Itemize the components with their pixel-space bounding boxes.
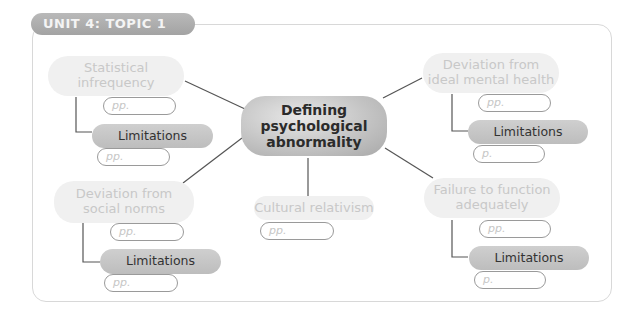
page-ref-field[interactable]: pp.	[110, 223, 184, 241]
limitations-label: Limitations	[494, 251, 563, 265]
central-node: Defining psychological abnormality	[241, 96, 387, 156]
limitations-label: Limitations	[126, 254, 195, 268]
limitations-node: Limitations	[468, 120, 588, 144]
limitations-label: Limitations	[118, 129, 187, 143]
node-cultural-relativism: Cultural relativism	[254, 196, 374, 220]
page-ref-field[interactable]: pp.	[104, 274, 178, 292]
node-label: Cultural relativism	[254, 201, 373, 216]
page-ref-field[interactable]: pp.	[260, 222, 334, 240]
central-node-label: Defining psychological abnormality	[259, 102, 369, 150]
limitations-node: Limitations	[469, 246, 589, 270]
node-label: Deviation from social norms	[74, 187, 174, 217]
node-failure-to-function: Failure to function adequately	[424, 178, 560, 218]
page-ref-field[interactable]: pp.	[103, 97, 176, 115]
limitations-node: Limitations	[100, 249, 221, 274]
limitations-label: Limitations	[493, 125, 562, 139]
node-label: Deviation from ideal mental health	[426, 58, 556, 88]
node-deviation-social-norms: Deviation from social norms	[54, 181, 194, 223]
node-statistical-infrequency: Statistical infrequency	[48, 56, 184, 96]
page-ref-field[interactable]: pp.	[97, 148, 170, 166]
limitations-node: Limitations	[92, 124, 213, 148]
page-ref-field[interactable]: p.	[474, 271, 546, 289]
page-ref-field[interactable]: pp.	[479, 220, 551, 238]
unit-topic-tag: UNIT 4: TOPIC 1	[31, 13, 195, 35]
page-ref-field[interactable]: pp.	[478, 94, 551, 112]
node-deviation-ideal-mental-health: Deviation from ideal mental health	[423, 53, 559, 93]
node-label: Failure to function adequately	[432, 183, 552, 213]
page-ref-field[interactable]: p.	[473, 145, 545, 163]
node-label: Statistical infrequency	[76, 61, 156, 91]
